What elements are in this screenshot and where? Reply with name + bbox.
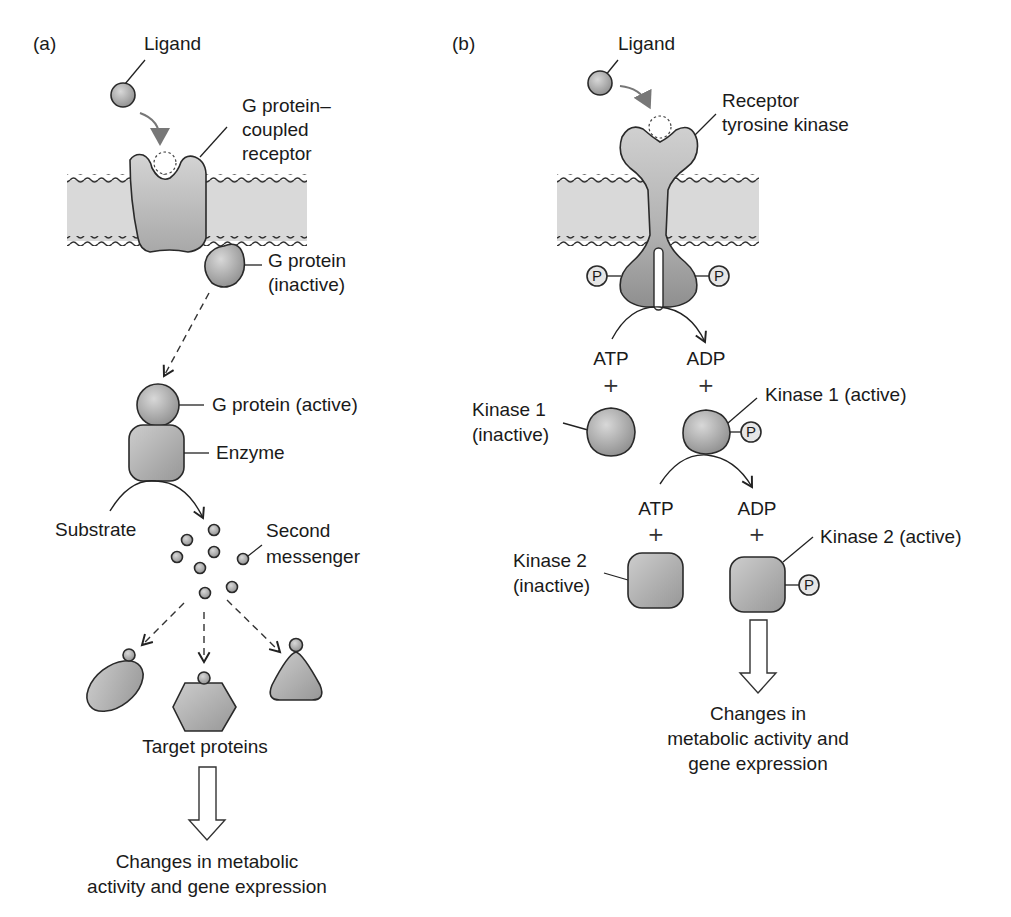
- plus-sign: +: [749, 522, 766, 546]
- adp-label-1: ADP: [686, 348, 725, 369]
- g-protein-active: [137, 384, 179, 426]
- kinase1-active-label: Kinase 1 (active): [765, 384, 907, 405]
- panel-b-label: (b): [452, 33, 475, 54]
- panel-a-label: (a): [33, 33, 56, 54]
- outcome-b-line1: Changes in: [710, 703, 806, 724]
- phosphorylation-arrow-2: [660, 455, 752, 487]
- phosphate-label: P: [714, 267, 724, 284]
- kinase2-active: [730, 557, 785, 612]
- kinase2-inactive-label-line1: Kinase 2: [513, 550, 587, 571]
- second-messenger-leader: [248, 545, 262, 556]
- ligand-binding-site-b: [649, 116, 671, 138]
- outcome-a-line2: activity and gene expression: [87, 876, 327, 897]
- atp-label-2: ATP: [638, 498, 674, 519]
- target-arrow-right: [227, 600, 280, 652]
- receptor-leader-a: [200, 127, 227, 157]
- outcome-b-line2: metabolic activity and: [667, 728, 849, 749]
- target-protein-triangle: [270, 639, 322, 701]
- target-protein-ellipse: [77, 649, 152, 721]
- outcome-a-line1: Changes in metabolic: [116, 851, 299, 872]
- ligand-binding-site-a: [154, 152, 176, 174]
- outcome-b-line3: gene expression: [688, 753, 827, 774]
- plus-sign: +: [698, 373, 715, 397]
- second-messengers: [172, 525, 249, 599]
- ligand-b: [588, 71, 612, 95]
- phosphate-label: P: [804, 576, 814, 593]
- activation-arrow-a: [164, 293, 209, 376]
- gpcr-label-line3: receptor: [242, 143, 312, 164]
- kinase1-active: [683, 410, 730, 454]
- rtk-leader: [695, 114, 716, 135]
- adp-label-2: ADP: [737, 498, 776, 519]
- ligand-a: [111, 83, 135, 107]
- rtk-label-line1: Receptor: [722, 90, 800, 111]
- target-protein-hexagon: [173, 672, 236, 731]
- g-active-label: G protein (active): [212, 394, 358, 415]
- g-protein-inactive: [205, 244, 245, 287]
- ligand-leader-a: [125, 60, 145, 84]
- phosphorylation-arrow-1: [612, 307, 705, 342]
- substrate-conversion-arrow: [110, 481, 203, 518]
- kinase2-active-label: Kinase 2 (active): [820, 526, 962, 547]
- panel-a: (a) Ligand G protein– coupled receptor G…: [33, 33, 361, 897]
- ligand-binding-arrow-b: [620, 86, 648, 104]
- kinase1-inactive-label-line1: Kinase 1: [472, 399, 546, 420]
- second-messenger-label-line2: messenger: [266, 546, 361, 567]
- panel-b: (b) Ligand Receptor tyrosine kinase P P …: [452, 33, 962, 774]
- target-proteins-label: Target proteins: [142, 736, 268, 757]
- ligand-binding-arrow-a: [140, 113, 160, 140]
- gpcr-label-line2: coupled: [242, 119, 309, 140]
- ligand-label-b: Ligand: [618, 33, 675, 54]
- substrate-label: Substrate: [55, 519, 136, 540]
- outcome-arrow-a: [189, 767, 225, 840]
- kinase1-inactive-label-line2: (inactive): [472, 424, 549, 445]
- atp-label-1: ATP: [593, 348, 629, 369]
- phosphate-label: P: [746, 423, 756, 440]
- second-messenger-label-line1: Second: [266, 520, 330, 541]
- kinase2-inactive: [628, 553, 683, 608]
- outcome-arrow-b: [740, 620, 776, 693]
- rtk-gap: [654, 248, 663, 310]
- kinase2-inactive-label-line2: (inactive): [513, 575, 590, 596]
- rtk-label-line2: tyrosine kinase: [722, 114, 849, 135]
- target-arrow-left: [142, 603, 184, 645]
- plus-sign: +: [648, 522, 665, 546]
- signaling-diagram: (a) Ligand G protein– coupled receptor G…: [0, 0, 1011, 917]
- ligand-label-a: Ligand: [144, 33, 201, 54]
- gpcr-label-line1: G protein–: [242, 95, 331, 116]
- g-inactive-label-line2: (inactive): [268, 274, 345, 295]
- phosphate-label: P: [592, 267, 602, 284]
- plus-sign: +: [603, 373, 620, 397]
- g-inactive-label-line1: G protein: [268, 250, 346, 271]
- enzyme: [129, 425, 184, 481]
- enzyme-label: Enzyme: [216, 442, 285, 463]
- kinase1-inactive: [587, 408, 635, 456]
